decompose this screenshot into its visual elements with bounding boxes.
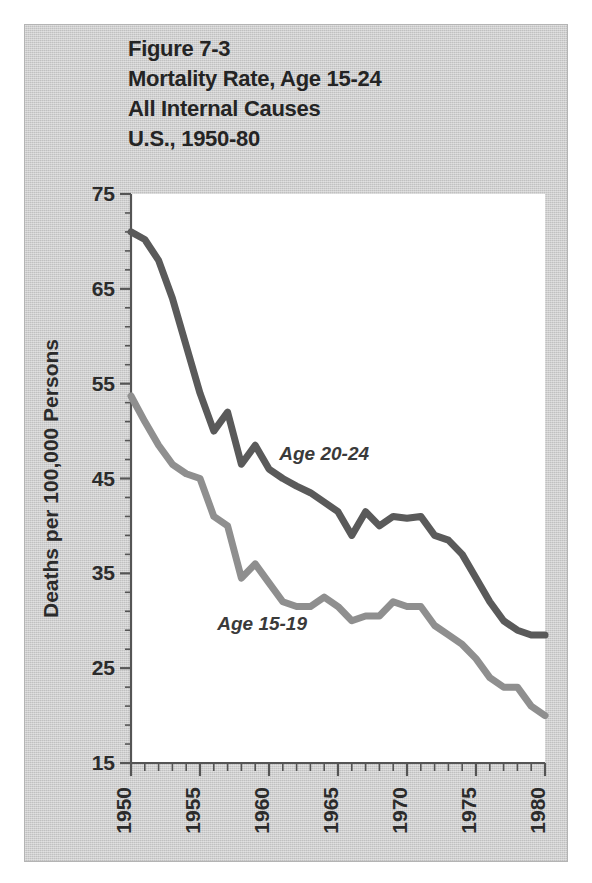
y-tick-label: 35: [92, 561, 116, 584]
x-tick-label: 1970: [388, 787, 411, 834]
x-axis-ticks: 1950195519601965197019751980: [112, 763, 549, 834]
y-axis-title: Deaths per 100,000 Persons: [39, 339, 62, 618]
x-tick-label: 1955: [181, 787, 204, 834]
y-tick-label: 25: [92, 656, 116, 679]
y-tick-label: 75: [92, 182, 116, 205]
y-axis-ticks: 15253545556575: [92, 182, 131, 774]
mortality-line-chart: 15253545556575 1950195519601965197019751…: [0, 0, 592, 883]
figure-root: Figure 7-3 Mortality Rate, Age 15-24 All…: [0, 0, 592, 883]
y-tick-label: 55: [92, 372, 116, 395]
series-annotation: Age 15-19: [216, 613, 307, 634]
series-annotation: Age 20-24: [278, 443, 369, 464]
x-tick-label: 1980: [526, 787, 549, 834]
y-tick-label: 15: [92, 751, 116, 774]
y-tick-label: 65: [92, 277, 116, 300]
x-tick-label: 1975: [457, 787, 480, 834]
y-axis-label: Deaths per 100,000 Persons: [39, 339, 62, 618]
y-tick-label: 45: [92, 467, 116, 490]
x-tick-label: 1950: [112, 787, 135, 834]
x-tick-label: 1960: [250, 787, 273, 834]
x-tick-label: 1965: [319, 787, 342, 834]
